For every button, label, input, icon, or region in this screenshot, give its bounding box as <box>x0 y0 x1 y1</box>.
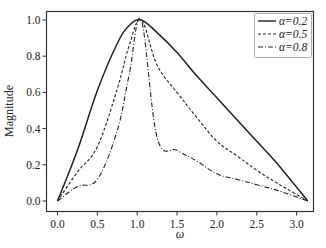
x-tick-label: 2.5 <box>250 218 265 230</box>
x-tick-label: 1.0 <box>130 218 145 230</box>
y-tick-label: 0.6 <box>26 86 41 98</box>
y-tick-label: 1.0 <box>26 14 41 26</box>
y-tick-label: 0.0 <box>26 195 41 207</box>
y-axis-label: Magnitude <box>2 85 16 137</box>
legend: α=0.2 α=0.5 α=0.8 <box>255 14 312 58</box>
y-tick-label: 0.4 <box>26 123 41 135</box>
x-tick-label: 0.5 <box>90 218 105 230</box>
y-tick-label: 0.8 <box>26 50 41 62</box>
legend-label: α=0.8 <box>279 41 307 53</box>
y-axis-ticks: 0.00.20.40.60.81.0 <box>26 14 46 207</box>
x-axis-label: ω <box>176 227 184 241</box>
line-chart: 0.00.51.01.52.02.53.0 0.00.20.40.60.81.0… <box>0 0 326 248</box>
legend-label: α=0.2 <box>279 15 307 27</box>
x-tick-label: 3.0 <box>289 218 304 230</box>
x-tick-label: 2.0 <box>210 218 225 230</box>
legend-label: α=0.5 <box>279 28 307 40</box>
y-tick-label: 0.2 <box>26 159 41 171</box>
x-tick-label: 0.0 <box>50 218 65 230</box>
